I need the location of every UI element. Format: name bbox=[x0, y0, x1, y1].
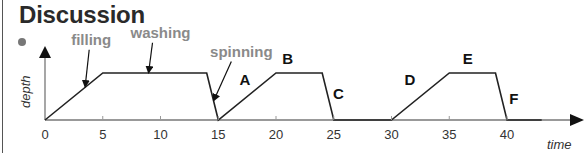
annotation-arrow-icon bbox=[215, 62, 232, 99]
annotation-washing: washing bbox=[129, 24, 190, 41]
annotation-a: A bbox=[239, 71, 250, 88]
x-tick-label: 10 bbox=[153, 127, 167, 142]
depth-time-diagram: depthtime fillingwashingspinningABCDEF 0… bbox=[0, 0, 585, 153]
annotation-spinning: spinning bbox=[210, 43, 273, 60]
x-tick-label: 20 bbox=[269, 127, 283, 142]
y-axis-label: depth bbox=[18, 75, 33, 108]
annotation-f: F bbox=[509, 90, 518, 107]
x-tick-label: 5 bbox=[99, 127, 106, 142]
annotation-arrow-icon bbox=[149, 43, 153, 70]
x-tick-label: 25 bbox=[327, 127, 341, 142]
y-axis-arrow-icon bbox=[39, 46, 51, 58]
x-tick-label: 30 bbox=[384, 127, 398, 142]
x-tick-label: 15 bbox=[211, 127, 225, 142]
depth-series-line bbox=[45, 73, 542, 120]
x-axis-arrow-icon bbox=[570, 114, 584, 126]
annotation-arrow-icon bbox=[85, 50, 89, 84]
x-tick-label: 40 bbox=[500, 127, 514, 142]
annotation-c: C bbox=[333, 85, 344, 102]
x-tick-label: 35 bbox=[442, 127, 456, 142]
annotation-d: D bbox=[405, 71, 416, 88]
annotation-filling: filling bbox=[71, 31, 111, 48]
annotation-b: B bbox=[282, 50, 293, 67]
x-tick-label: 0 bbox=[41, 127, 48, 142]
annotation-e: E bbox=[463, 50, 473, 67]
x-axis-label: time bbox=[547, 137, 572, 152]
